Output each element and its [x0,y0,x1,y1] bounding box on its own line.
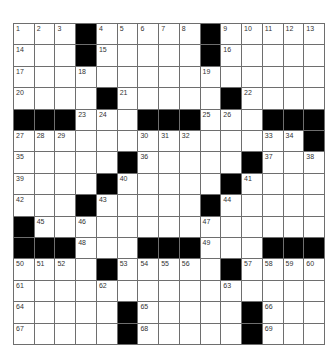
crossword-cell[interactable] [180,45,201,66]
crossword-cell[interactable] [35,302,56,323]
crossword-cell[interactable] [55,302,76,323]
crossword-cell[interactable] [118,67,139,88]
crossword-cell[interactable] [159,281,180,302]
crossword-cell[interactable]: 63 [221,281,242,302]
crossword-cell[interactable]: 59 [284,259,305,280]
crossword-cell[interactable]: 35 [14,152,35,173]
crossword-cell[interactable]: 52 [55,259,76,280]
crossword-cell[interactable] [76,302,97,323]
crossword-cell[interactable] [138,174,159,195]
crossword-cell[interactable] [76,131,97,152]
crossword-cell[interactable]: 19 [201,67,222,88]
crossword-cell[interactable] [159,217,180,238]
crossword-cell[interactable]: 21 [118,88,139,109]
crossword-cell[interactable] [201,259,222,280]
crossword-cell[interactable] [159,152,180,173]
crossword-cell[interactable] [284,281,305,302]
crossword-cell[interactable]: 9 [221,24,242,45]
crossword-cell[interactable] [35,174,56,195]
crossword-cell[interactable] [263,217,284,238]
crossword-cell[interactable]: 24 [97,110,118,131]
crossword-cell[interactable] [138,195,159,216]
crossword-cell[interactable]: 41 [242,174,263,195]
crossword-cell[interactable]: 18 [76,67,97,88]
crossword-cell[interactable] [35,67,56,88]
crossword-cell[interactable]: 13 [304,24,325,45]
crossword-cell[interactable] [242,217,263,238]
crossword-cell[interactable] [284,174,305,195]
crossword-cell[interactable]: 11 [263,24,284,45]
crossword-cell[interactable]: 30 [138,131,159,152]
crossword-cell[interactable] [242,45,263,66]
crossword-cell[interactable]: 15 [97,45,118,66]
crossword-cell[interactable] [284,88,305,109]
crossword-cell[interactable]: 34 [284,131,305,152]
crossword-cell[interactable] [284,67,305,88]
crossword-cell[interactable] [221,67,242,88]
crossword-cell[interactable] [159,67,180,88]
crossword-cell[interactable] [304,88,325,109]
crossword-cell[interactable] [201,302,222,323]
crossword-cell[interactable] [76,174,97,195]
crossword-cell[interactable]: 26 [221,110,242,131]
crossword-cell[interactable] [159,302,180,323]
crossword-cell[interactable] [221,152,242,173]
crossword-cell[interactable] [242,238,263,259]
crossword-cell[interactable]: 43 [97,195,118,216]
crossword-cell[interactable] [118,238,139,259]
crossword-cell[interactable]: 25 [201,110,222,131]
crossword-cell[interactable] [55,152,76,173]
crossword-cell[interactable] [284,302,305,323]
crossword-cell[interactable] [221,131,242,152]
crossword-cell[interactable]: 29 [55,131,76,152]
crossword-cell[interactable]: 42 [14,195,35,216]
crossword-cell[interactable] [97,302,118,323]
crossword-cell[interactable] [284,152,305,173]
crossword-cell[interactable] [55,88,76,109]
crossword-cell[interactable] [35,88,56,109]
crossword-cell[interactable] [55,195,76,216]
crossword-cell[interactable] [35,45,56,66]
crossword-cell[interactable] [180,217,201,238]
crossword-cell[interactable]: 38 [304,152,325,173]
crossword-cell[interactable] [159,324,180,345]
crossword-cell[interactable] [263,174,284,195]
crossword-cell[interactable] [180,67,201,88]
crossword-cell[interactable] [159,195,180,216]
crossword-cell[interactable] [304,217,325,238]
crossword-cell[interactable] [201,152,222,173]
crossword-cell[interactable] [284,45,305,66]
crossword-cell[interactable] [118,110,139,131]
crossword-cell[interactable]: 53 [118,259,139,280]
crossword-cell[interactable] [304,302,325,323]
crossword-cell[interactable] [201,88,222,109]
crossword-cell[interactable] [304,195,325,216]
crossword-cell[interactable] [284,217,305,238]
crossword-cell[interactable] [304,174,325,195]
crossword-cell[interactable] [35,324,56,345]
crossword-cell[interactable]: 62 [97,281,118,302]
crossword-cell[interactable]: 1 [14,24,35,45]
crossword-cell[interactable] [118,217,139,238]
crossword-cell[interactable] [304,67,325,88]
crossword-cell[interactable] [284,324,305,345]
crossword-cell[interactable]: 36 [138,152,159,173]
crossword-cell[interactable]: 37 [263,152,284,173]
crossword-cell[interactable] [118,195,139,216]
crossword-cell[interactable] [97,217,118,238]
crossword-cell[interactable]: 64 [14,302,35,323]
crossword-cell[interactable] [180,302,201,323]
crossword-cell[interactable]: 20 [14,88,35,109]
crossword-cell[interactable]: 3 [55,24,76,45]
crossword-cell[interactable]: 56 [180,259,201,280]
crossword-cell[interactable] [138,281,159,302]
crossword-cell[interactable]: 17 [14,67,35,88]
crossword-cell[interactable] [138,88,159,109]
crossword-cell[interactable]: 66 [263,302,284,323]
crossword-cell[interactable]: 47 [201,217,222,238]
crossword-cell[interactable]: 32 [180,131,201,152]
crossword-cell[interactable]: 68 [138,324,159,345]
crossword-cell[interactable]: 60 [304,259,325,280]
crossword-cell[interactable] [118,131,139,152]
crossword-cell[interactable] [55,174,76,195]
